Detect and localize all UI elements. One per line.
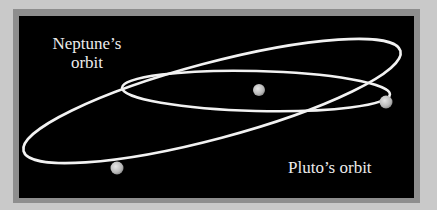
orbit-diagram [0,0,437,210]
neptune-body [111,162,124,175]
pluto-orbit-label: Pluto’s orbit [288,158,372,177]
sun-body [253,84,265,96]
neptune-orbit-label-line2: orbit [44,53,130,72]
neptune-orbit-label: Neptune’s orbit [44,34,130,72]
neptune-orbit-label-line1: Neptune’s [44,34,130,53]
pluto-body [380,96,393,109]
